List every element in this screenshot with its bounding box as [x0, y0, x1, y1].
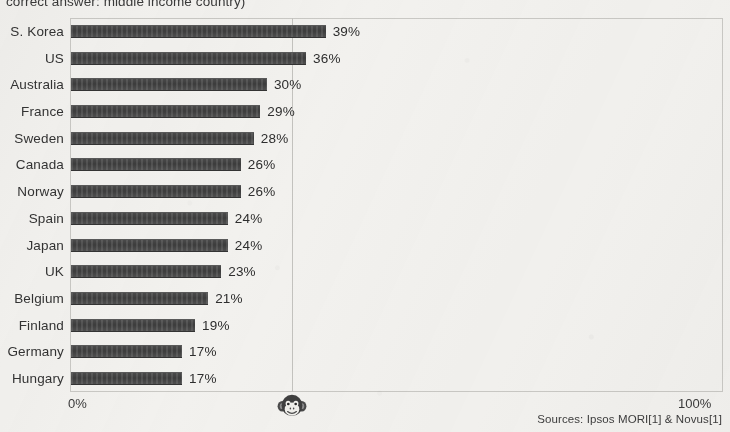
category-label: UK — [0, 264, 64, 279]
bar-value-label: 17% — [189, 371, 217, 386]
category-label: France — [0, 104, 64, 119]
bar-track: 26% — [71, 179, 730, 205]
bar-track: 17% — [71, 339, 730, 365]
bar-value-label: 19% — [202, 318, 230, 333]
x-axis-tick-100: 100% — [678, 396, 711, 411]
category-label: Spain — [0, 211, 64, 226]
bar — [71, 78, 267, 91]
bar-row: Hungary17% — [0, 366, 730, 392]
bar — [71, 345, 182, 358]
bar-row: Finland19% — [0, 312, 730, 338]
monkey-face-icon — [277, 392, 307, 420]
bar-track: 26% — [71, 152, 730, 178]
bar-row: Australia30% — [0, 72, 730, 98]
category-label: Hungary — [0, 371, 64, 386]
bar-value-label: 26% — [248, 184, 276, 199]
bar-row: Japan24% — [0, 232, 730, 258]
category-label: Finland — [0, 318, 64, 333]
bar-value-label: 29% — [267, 104, 295, 119]
bar — [71, 132, 254, 145]
bar-value-label: 39% — [333, 24, 361, 39]
bar-rows-container: S. Korea39%US36%Australia30%France29%Swe… — [0, 18, 730, 392]
bar-row: US36% — [0, 45, 730, 71]
bar-row: France29% — [0, 99, 730, 125]
bar-track: 29% — [71, 99, 730, 125]
category-label: US — [0, 51, 64, 66]
bar-row: Belgium21% — [0, 286, 730, 312]
bar — [71, 265, 221, 278]
bar — [71, 212, 228, 225]
bar-track: 30% — [71, 72, 730, 98]
bar-value-label: 30% — [274, 77, 302, 92]
bar-row: Sweden28% — [0, 125, 730, 151]
bar-track: 39% — [71, 18, 730, 44]
bar-row: Germany17% — [0, 339, 730, 365]
category-label: Germany — [0, 344, 64, 359]
bar — [71, 239, 228, 252]
bar-row: Spain24% — [0, 205, 730, 231]
chart-title: correct answer: middle income country) — [6, 0, 426, 9]
bar — [71, 185, 241, 198]
bar — [71, 319, 195, 332]
bar-value-label: 36% — [313, 51, 341, 66]
bar-row: UK23% — [0, 259, 730, 285]
category-label: Belgium — [0, 291, 64, 306]
bar-value-label: 24% — [235, 238, 263, 253]
category-label: Sweden — [0, 131, 64, 146]
bar-track: 17% — [71, 366, 730, 392]
bar — [71, 25, 326, 38]
bar-value-label: 28% — [261, 131, 289, 146]
category-label: Norway — [0, 184, 64, 199]
bar-value-label: 24% — [235, 211, 263, 226]
bar — [71, 52, 306, 65]
bar-value-label: 23% — [228, 264, 256, 279]
bar — [71, 292, 208, 305]
bar-track: 24% — [71, 232, 730, 258]
bar-row: Norway26% — [0, 179, 730, 205]
bar-track: 24% — [71, 205, 730, 231]
bar — [71, 105, 260, 118]
bar-value-label: 17% — [189, 344, 217, 359]
category-label: Canada — [0, 157, 64, 172]
bar — [71, 372, 182, 385]
bar-track: 19% — [71, 312, 730, 338]
bar-track: 28% — [71, 125, 730, 151]
bar-row: Canada26% — [0, 152, 730, 178]
bar-track: 23% — [71, 259, 730, 285]
bar — [71, 158, 241, 171]
sources-note: Sources: Ipsos MORI[1] & Novus[1] — [537, 413, 722, 425]
category-label: S. Korea — [0, 24, 64, 39]
bar-value-label: 26% — [248, 157, 276, 172]
bar-value-label: 21% — [215, 291, 243, 306]
category-label: Japan — [0, 238, 64, 253]
x-axis-tick-0: 0% — [68, 396, 87, 411]
bar-row: S. Korea39% — [0, 18, 730, 44]
bar-track: 36% — [71, 45, 730, 71]
category-label: Australia — [0, 77, 64, 92]
bar-track: 21% — [71, 286, 730, 312]
